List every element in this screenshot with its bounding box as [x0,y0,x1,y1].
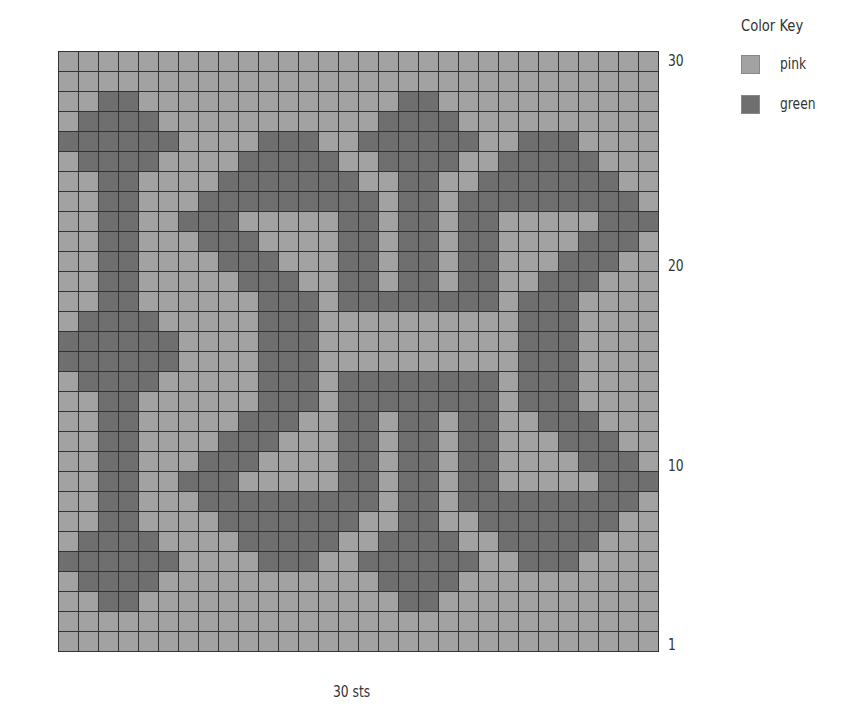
chart-cell [118,91,138,111]
chart-cell [198,431,218,451]
chart-cell [158,591,178,611]
chart-cell [458,551,478,571]
chart-cell [618,131,638,151]
chart-cell [338,51,358,71]
chart-cell [398,491,418,511]
chart-cell [238,211,258,231]
chart-cell [218,71,238,91]
chart-cell [78,531,98,551]
chart-cell [478,111,498,131]
chart-cell [598,331,618,351]
chart-cell [598,511,618,531]
chart-cell [238,311,258,331]
chart-cell [318,391,338,411]
chart-cell [298,191,318,211]
chart-cell [258,211,278,231]
chart-cell [458,271,478,291]
chart-cell [398,391,418,411]
chart-cell [238,591,258,611]
chart-cell [218,631,238,651]
chart-cell [238,531,258,551]
chart-cell [58,71,78,91]
chart-cell [418,431,438,451]
chart-cell [498,391,518,411]
chart-cell [218,451,238,471]
chart-cell [618,71,638,91]
chart-cell [118,631,138,651]
chart-cell [558,171,578,191]
chart-cell [618,451,638,471]
chart-cell [298,151,318,171]
chart-cell [218,411,238,431]
chart-cell [118,271,138,291]
chart-cell [598,271,618,291]
chart-cell [78,391,98,411]
chart-cell [318,431,338,451]
chart-cell [118,591,138,611]
chart-cell [238,91,258,111]
chart-cell [138,231,158,251]
chart-cell [418,271,438,291]
chart-cell [538,591,558,611]
row-label-1: 1 [668,636,676,654]
chart-cell [478,171,498,191]
chart-cell [458,411,478,431]
chart-cell [58,311,78,331]
chart-cell [398,311,418,331]
chart-cell [218,171,238,191]
chart-cell [538,311,558,331]
chart-cell [78,371,98,391]
chart-cell [238,551,258,571]
chart-cell [98,451,118,471]
chart-cell [138,311,158,331]
chart-cell [498,451,518,471]
chart-cell [398,91,418,111]
chart-cell [258,271,278,291]
chart-cell [58,471,78,491]
chart-cell [578,91,598,111]
chart-cell [498,611,518,631]
chart-cell [598,411,618,431]
chart-cell [58,551,78,571]
chart-cell [278,571,298,591]
chart-cell [538,171,558,191]
chart-cell [58,131,78,151]
chart-cell [398,171,418,191]
chart-cell [318,631,338,651]
chart-cell [498,631,518,651]
chart-cell [558,371,578,391]
chart-cell [478,191,498,211]
chart-cell [318,111,338,131]
chart-cell [118,171,138,191]
chart-cell [278,431,298,451]
chart-cell [418,351,438,371]
chart-cell [398,471,418,491]
chart-cell [78,271,98,291]
key-label-pink: pink [780,55,806,73]
chart-cell [378,291,398,311]
chart-cell [498,571,518,591]
chart-cell [238,51,258,71]
chart-cell [58,611,78,631]
chart-cell [558,271,578,291]
chart-cell [318,171,338,191]
chart-cell [378,631,398,651]
chart-cell [118,391,138,411]
chart-cell [378,371,398,391]
chart-cell [438,491,458,511]
chart-cell [278,451,298,471]
chart-cell [238,131,258,151]
chart-cell [358,431,378,451]
chart-cell [618,211,638,231]
chart-cell [458,211,478,231]
chart-cell [258,151,278,171]
chart-cell [58,251,78,271]
chart-cell [518,311,538,331]
chart-cell [98,251,118,271]
chart-cell [538,291,558,311]
chart-cell [278,191,298,211]
chart-cell [578,411,598,431]
chart-cell [498,531,518,551]
chart-cell [378,51,398,71]
chart-cell [138,351,158,371]
